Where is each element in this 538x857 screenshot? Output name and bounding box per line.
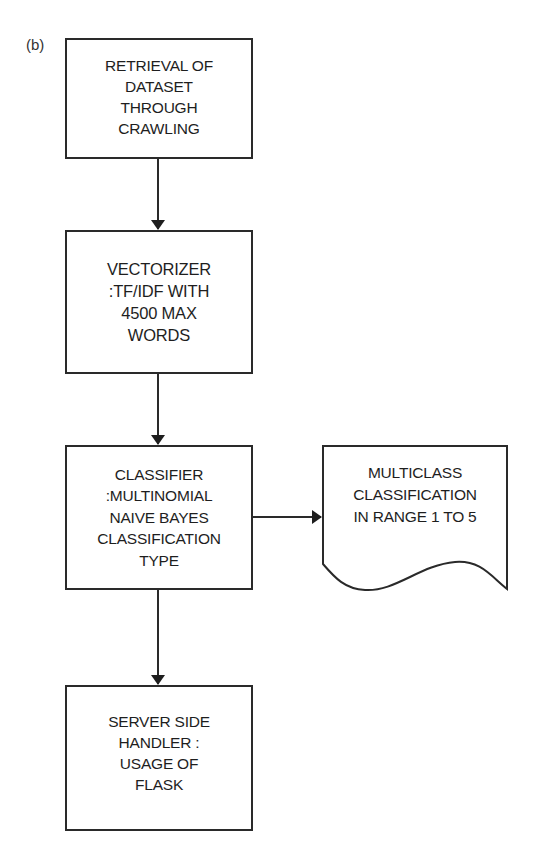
node-retrieval-text: RETRIEVAL OF DATASET THROUGH CRAWLING [105,55,213,139]
node-server-text: SERVER SIDE HANDLER : USAGE OF FLASK [108,711,210,795]
node-vectorizer: VECTORIZER :TF/IDF WITH 4500 MAX WORDS [65,230,253,374]
node-classifier-text: CLASSIFIER :MULTINOMIAL NAIVE BAYES CLAS… [97,464,221,572]
node-vectorizer-text: VECTORIZER :TF/IDF WITH 4500 MAX WORDS [107,258,211,346]
node-server: SERVER SIDE HANDLER : USAGE OF FLASK [65,685,253,831]
node-output-text: MULTICLASS CLASSIFICATION IN RANGE 1 TO … [322,462,508,528]
node-classifier: CLASSIFIER :MULTINOMIAL NAIVE BAYES CLAS… [65,445,253,590]
node-retrieval: RETRIEVAL OF DATASET THROUGH CRAWLING [65,38,253,159]
